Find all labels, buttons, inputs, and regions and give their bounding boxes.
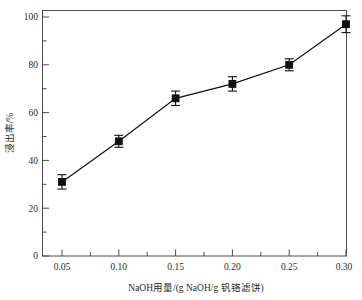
- x-tick-label-0-10: 0.10: [110, 262, 127, 272]
- x-tick-label-0-30: 0.30: [336, 262, 353, 272]
- y-tick-label-80: 80: [29, 60, 39, 70]
- data-marker-0-05: [59, 179, 66, 186]
- x-axis-title: NaOH用量/(g NaOH/g 钒铬滤饼): [128, 282, 263, 294]
- y-tick-label-100: 100: [24, 12, 39, 22]
- data-marker-0-30: [343, 21, 350, 28]
- data-marker-0-25: [286, 61, 293, 68]
- data-marker-0-20: [229, 81, 236, 88]
- leaching-rate-line-chart: 100 80 60 40 20 0 0.05 0.10 0.15 0.20 0.…: [0, 0, 362, 300]
- data-marker-0-10: [115, 138, 122, 145]
- y-tick-label-40: 40: [29, 156, 39, 166]
- x-tick-label-0-25: 0.25: [281, 262, 298, 272]
- data-marker-0-15: [172, 95, 179, 102]
- chart-background: [0, 0, 362, 300]
- x-tick-label-0-05: 0.05: [54, 262, 71, 272]
- x-tick-label-0-20: 0.20: [224, 262, 241, 272]
- chart-figure: 100 80 60 40 20 0 0.05 0.10 0.15 0.20 0.…: [0, 0, 362, 300]
- y-tick-label-20: 20: [29, 204, 39, 214]
- y-tick-label-0: 0: [33, 251, 38, 261]
- y-axis-title: 浸出率/%: [4, 113, 15, 154]
- x-tick-label-0-15: 0.15: [167, 262, 184, 272]
- y-tick-label-60: 60: [29, 108, 39, 118]
